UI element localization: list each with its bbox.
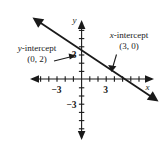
y-intercept-pointer-line bbox=[54, 57, 72, 62]
x-axis bbox=[30, 75, 154, 83]
x-intercept-label-rest: -intercept bbox=[114, 30, 149, 40]
y-axis-label: y bbox=[72, 15, 77, 25]
y-tick-label-minus3: −3 bbox=[66, 100, 76, 110]
y-axis bbox=[78, 20, 86, 140]
x-intercept-annotation: x-intercept (3, 0) bbox=[108, 30, 149, 72]
x-intercept-label: x-intercept bbox=[109, 30, 149, 40]
x-tick-label-minus3: −3 bbox=[51, 85, 61, 95]
y-intercept-coords: (0, 2) bbox=[27, 54, 47, 64]
x-intercept-coords: (3, 0) bbox=[119, 41, 139, 51]
line-arrow-upper-left-icon bbox=[33, 18, 45, 28]
y-axis-arrow-down-icon bbox=[78, 131, 86, 140]
x-axis-arrow-left-icon bbox=[30, 75, 39, 83]
y-intercept-annotation: y-intercept (0, 2) bbox=[17, 43, 76, 64]
x-tick-label-3: 3 bbox=[103, 85, 108, 95]
y-intercept-label: y-intercept bbox=[17, 43, 57, 53]
y-axis-arrow-up-icon bbox=[78, 20, 86, 29]
x-axis-label: x bbox=[145, 82, 150, 92]
coordinate-graph-figure: y x −3 3 3 −3 y-intercept (0, 2) x-inter… bbox=[0, 0, 165, 147]
line-arrow-lower-right-icon bbox=[147, 91, 159, 101]
y-intercept-label-rest: -intercept bbox=[22, 43, 57, 53]
